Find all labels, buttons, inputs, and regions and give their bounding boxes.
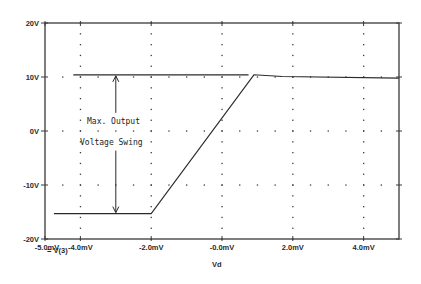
x-tick-label: -4.0mV <box>68 243 93 252</box>
y-tick-label: 20V <box>26 19 39 28</box>
y-tick-label: -10V <box>23 181 39 190</box>
x-axis-title: Vd <box>212 260 222 269</box>
x-tick-label: -2.0mV <box>139 243 164 252</box>
annotation-voltage-swing: Voltage Swing <box>80 138 143 147</box>
transfer-curve-chart: 20V10V0V-10V-20V -5.0mV-4.0mV-2.0mV-0.0m… <box>0 0 421 284</box>
annotation-max-output: Max. Output <box>87 117 140 126</box>
x-tick-label: 4.0mV <box>353 243 375 252</box>
x-tick-label: -0.0mV <box>210 243 235 252</box>
legend-v3: = V(3) <box>47 246 68 255</box>
y-tick-label: 0V <box>30 127 39 136</box>
grid-dots <box>62 22 382 239</box>
x-axis-labels: -5.0mV-4.0mV-2.0mV-0.0mV2.0mV4.0mV <box>35 243 375 252</box>
y-tick-label: 10V <box>26 73 39 82</box>
y-axis-labels: 20V10V0V-10V-20V <box>23 19 39 244</box>
x-tick-label: 2.0mV <box>282 243 304 252</box>
